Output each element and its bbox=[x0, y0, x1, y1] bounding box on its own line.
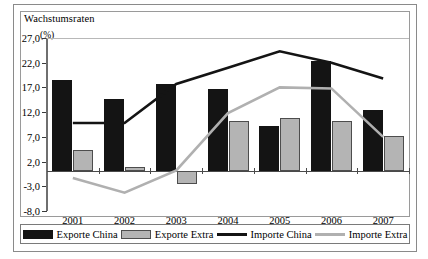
line-series-layer bbox=[0, 0, 428, 259]
plot-area: 27,022,017,012,07,02,0-3,0-8,02001200220… bbox=[0, 0, 428, 259]
line-importe-extra bbox=[73, 87, 383, 192]
chart-screenshot: Wachstumsraten (%) 27,022,017,012,07,02,… bbox=[0, 0, 428, 259]
